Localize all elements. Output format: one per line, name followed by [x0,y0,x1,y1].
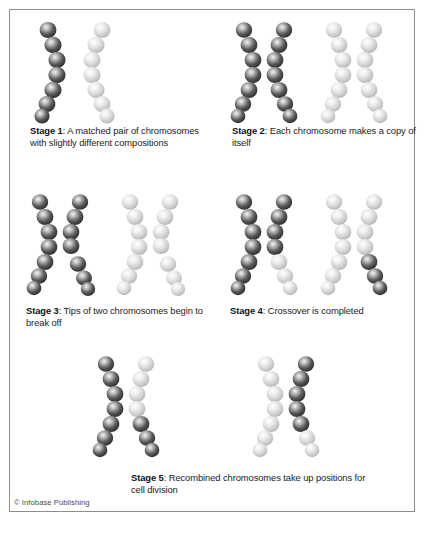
stage-5-panel [88,352,368,464]
stage-3-chromosome-art [22,190,217,302]
recombined-chromosome-left [93,356,160,457]
stage-2-label: Stage 2 [232,125,265,136]
stage-4-caption: Stage 4: Crossover is completed [230,305,425,317]
stage-4-text: Crossover is completed [268,305,364,316]
stage-4-chromosome-art [226,190,421,302]
break-gap-light [160,256,185,296]
dark-chromosome-pair-breaking [27,194,96,296]
break-gap-dark [70,256,95,296]
stage-2-panel [226,18,416,128]
stage-2-chromosome-art [226,18,416,128]
stage-5-chromosome-art [88,352,368,464]
stage-1-caption: Stage 1: A matched pair of chromosomes w… [30,125,215,150]
stage-3-panel [22,190,217,302]
light-tip-segment-right [299,430,320,457]
stage-1-chromosome-art [26,18,216,128]
light-chromosome-pair [321,22,388,123]
recombined-chromosome-right [253,356,320,457]
copyright-notice: © Infobase Publishing [14,498,90,507]
stage-2-caption: Stage 2: Each chromosome makes a copy of… [232,125,417,150]
exchanged-light-segment [271,254,298,295]
dark-tip-segment-left [133,416,160,457]
chromosome-crossover-figure: Stage 1: A matched pair of chromosomes w… [0,0,426,536]
light-chromosome-pair-breaking [117,194,186,296]
light-chromatid [83,22,114,123]
stage-1-panel [26,18,216,128]
stage-1-label: Stage 1 [30,125,63,136]
dark-chromosome-pair-crossed [231,194,298,295]
light-chromosome-pair-crossed [321,194,388,295]
stage-3-caption: Stage 3: Tips of two chromosomes begin t… [26,305,221,330]
stage-4-panel [226,190,421,302]
stage-5-caption: Stage 5: Recombined chromosomes take up … [131,472,381,497]
dark-chromosome-pair [231,22,298,123]
dark-chromatid [34,22,65,123]
exchanged-dark-segment [361,254,388,295]
stage-5-label: Stage 5 [131,472,164,483]
stage-3-label: Stage 3 [26,305,59,316]
stage-4-label: Stage 4 [230,305,263,316]
